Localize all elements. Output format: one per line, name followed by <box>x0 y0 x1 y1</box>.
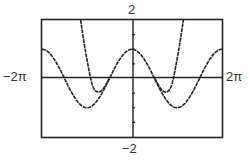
x-min-label: −2π <box>3 70 27 83</box>
y-min-label: −2 <box>122 142 137 155</box>
graph-plot <box>0 0 249 161</box>
cos-curve <box>42 49 222 107</box>
viewing-window-frame <box>42 20 223 138</box>
steep-curve-right <box>155 20 184 92</box>
steep-curve-left <box>81 20 110 92</box>
y-max-label: 2 <box>128 3 135 16</box>
x-max-label: 2π <box>226 70 242 83</box>
